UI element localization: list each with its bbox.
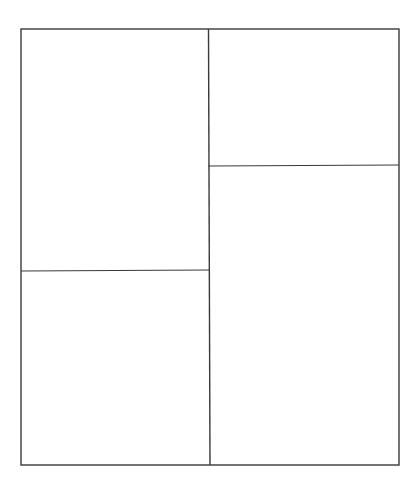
diagram-canvas <box>0 0 419 481</box>
panel-layout-diagram <box>0 0 419 481</box>
left-horizontal-divider <box>21 270 210 271</box>
right-horizontal-divider <box>209 165 400 166</box>
vertical-center-divider <box>209 29 211 465</box>
